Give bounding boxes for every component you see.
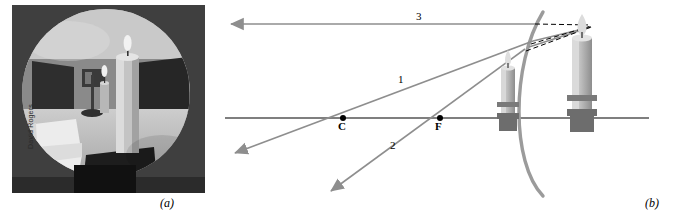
panel-b-label: (b) [645,196,659,211]
photo-credit: David Rogers [27,82,34,172]
photo-graphic [12,5,205,193]
image-candle [497,50,519,131]
ray-2-label: 2 [390,139,396,151]
panel-a-label: (a) [160,196,174,211]
ray-1-reflected [235,41,533,153]
ray-3-label: 3 [416,10,422,22]
figure-container: David Rogers (a) [0,0,673,223]
convex-mirror-photograph [12,5,205,193]
point-f-label: F [435,120,442,132]
panel-a: David Rogers [12,5,205,193]
point-c-label: C [338,120,346,132]
ray-2-reflected [331,49,525,191]
ray-diagram-graphic [213,5,673,215]
ray-1-label: 1 [398,73,404,85]
